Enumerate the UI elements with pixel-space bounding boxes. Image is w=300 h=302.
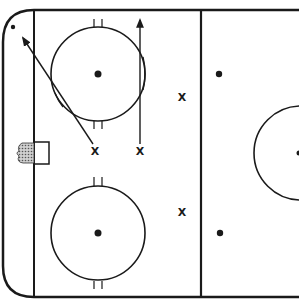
- player-marker: X: [136, 145, 145, 158]
- center-dot: [297, 151, 300, 156]
- player-marker: X: [178, 206, 187, 219]
- player-marker: X: [178, 91, 187, 104]
- neutral-zone-dot-bottom: [217, 230, 223, 236]
- player-marker: X: [91, 145, 100, 158]
- faceoff-circle-top: [51, 19, 145, 129]
- goal-crease: [34, 142, 49, 164]
- center-circle: [254, 106, 299, 200]
- puck-dot: [11, 25, 15, 29]
- faceoff-circle-bottom: [51, 177, 145, 289]
- goal-net: [17, 143, 34, 163]
- hockey-rink-diagram: X X X X: [0, 0, 299, 302]
- neutral-zone-dot-top: [216, 71, 222, 77]
